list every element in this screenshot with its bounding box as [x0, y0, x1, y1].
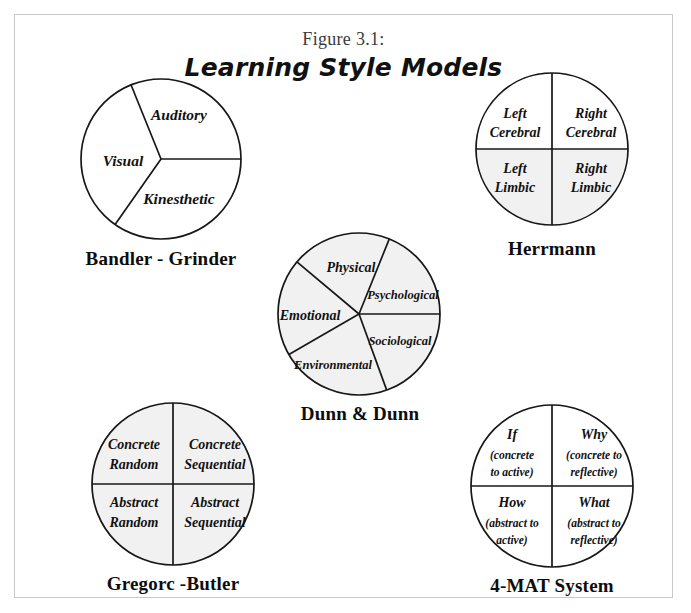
model-herrmann: Left Cerebral Right Cerebral Left Limbic… — [462, 73, 642, 269]
slice-label-abstract-sequential-line1: Abstract — [190, 495, 240, 510]
slice-label-right-limbic-line2: Limbic — [570, 180, 612, 195]
slice-label-left-limbic-line1: Left — [502, 161, 527, 176]
model-name-herrmann: Herrmann — [508, 238, 596, 260]
slice-label-why-line3: reflective) — [570, 466, 617, 479]
slice-label-why-line2: (concrete to — [566, 449, 622, 462]
slice-label-what-line2: (abstract to — [567, 517, 621, 530]
slice-label-concrete-sequential-line2: Sequential — [184, 457, 246, 472]
herrmann-wheel: Left Cerebral Right Cerebral Left Limbic… — [462, 73, 642, 235]
slice-label-concrete-random-line2: Random — [108, 457, 158, 472]
slice-label-how-line2: (abstract to — [485, 517, 539, 530]
dunn-dunn-wheel: Physical Psychological Sociological Envi… — [267, 233, 453, 399]
slice-label-abstract-random-line1: Abstract — [109, 495, 159, 510]
model-name-gregorc-butler: Gregorc -Butler — [107, 573, 240, 595]
slice-label-left-cerebral-line2: Cerebral — [490, 125, 541, 140]
slice-label-psychological: Psychological — [367, 288, 439, 302]
figure-frame: Figure 3.1: Learning Style Models Audito… — [14, 14, 673, 598]
slice-label-how-line3: active) — [496, 534, 527, 547]
slice-label-kinesthetic: Kinesthetic — [142, 190, 215, 207]
slice-label-what-line3: reflective) — [570, 534, 617, 547]
slice-label-if-line3: to active) — [490, 466, 533, 479]
slice-label-how-line1: How — [497, 495, 526, 510]
bandler-grinder-wheel: Auditory Visual Kinesthetic — [71, 76, 251, 242]
slice-label-why-line1: Why — [581, 427, 608, 442]
model-name-dunn-dunn: Dunn & Dunn — [301, 403, 419, 425]
model-dunn-dunn: Physical Psychological Sociological Envi… — [267, 233, 453, 423]
model-gregorc-butler: Concrete Random Concrete Sequential Abst… — [81, 401, 265, 597]
slice-label-right-limbic-line1: Right — [574, 161, 608, 176]
slice-label-abstract-sequential-line2: Sequential — [184, 515, 246, 530]
slice-label-visual: Visual — [103, 152, 144, 169]
slice-label-physical: Physical — [327, 260, 376, 275]
model-name-four-mat: 4-MAT System — [490, 575, 614, 597]
slice-label-what-line1: What — [578, 495, 610, 510]
slice-label-environmental: Environmental — [293, 358, 372, 372]
slice-label-if-line1: If — [506, 427, 518, 442]
slice-label-if-line2: (concrete — [490, 449, 534, 462]
slice-label-sociological: Sociological — [368, 334, 432, 348]
slice-label-auditory: Auditory — [150, 106, 207, 123]
slice-label-concrete-random-line1: Concrete — [108, 437, 160, 452]
model-four-mat: If (concrete to active) Why (concrete to… — [460, 403, 644, 599]
slice-label-abstract-random-line2: Random — [108, 515, 158, 530]
gregorc-butler-wheel: Concrete Random Concrete Sequential Abst… — [81, 401, 265, 567]
slice-label-left-cerebral-line1: Left — [502, 106, 527, 121]
model-bandler-grinder: Auditory Visual Kinesthetic Bandler - Gr… — [71, 76, 251, 272]
slice-label-right-cerebral-line2: Cerebral — [566, 125, 617, 140]
slice-label-right-cerebral-line1: Right — [574, 106, 608, 121]
slice-label-concrete-sequential-line1: Concrete — [189, 437, 241, 452]
slice-label-left-limbic-line2: Limbic — [494, 180, 536, 195]
slice-label-emotional: Emotional — [279, 308, 341, 323]
figure-caption: Figure 3.1: — [15, 29, 672, 50]
four-mat-wheel: If (concrete to active) Why (concrete to… — [460, 403, 644, 569]
model-name-bandler-grinder: Bandler - Grinder — [86, 248, 237, 270]
